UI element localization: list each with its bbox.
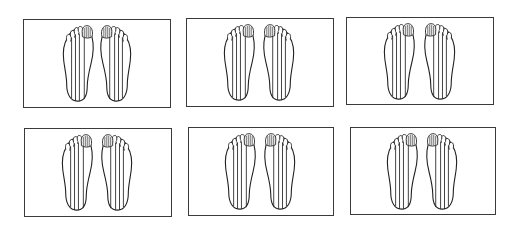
right-foot [425,24,455,99]
left-foot [387,134,417,209]
right-foot [264,25,294,100]
left-foot [62,135,92,210]
left-foot [224,25,254,100]
foot-panel-4 [24,128,172,217]
left-foot [384,24,414,99]
foot-panel-6 [350,127,496,215]
foot-panel-2 [186,18,334,107]
foot-panel-1 [23,19,171,108]
feet-pair-3 [347,18,493,104]
right-foot [101,26,131,101]
feet-pair-1 [24,20,170,107]
feet-pair-6 [351,128,495,214]
right-foot [102,135,132,210]
foot-panel-3 [346,17,494,105]
right-foot [427,134,457,209]
foot-panel-5 [188,127,334,216]
feet-pair-2 [187,19,333,106]
left-foot [63,26,93,101]
feet-pair-4 [25,129,171,216]
feet-pair-5 [189,128,333,215]
right-foot [265,134,295,209]
left-foot [225,134,255,209]
